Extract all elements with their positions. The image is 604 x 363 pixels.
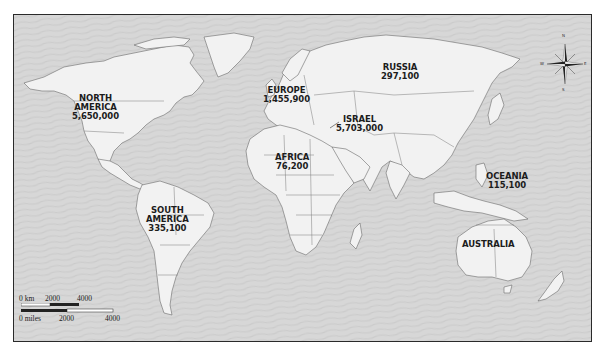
compass-n-label: N	[562, 33, 565, 38]
region-label-europe: EUROPE 1,455,900	[263, 86, 310, 104]
compass-rose-icon	[543, 38, 587, 90]
region-label-australia: AUSTRALIA	[462, 240, 515, 249]
scale-km-tick-2000: 2000	[45, 294, 60, 303]
scale-miles-tick-4000: 4000	[105, 314, 120, 323]
region-label-russia: RUSSIA 297,100	[381, 63, 419, 81]
compass-e-label: E	[584, 61, 587, 66]
region-label-south-america: SOUTH AMERICA 335,100	[146, 206, 189, 233]
map-frame: NORTH AMERICA 5,650,000 EUROPE 1,455,900…	[13, 14, 592, 342]
region-value: 76,200	[275, 162, 309, 171]
scale-bar: 0 km 2000 4000 0 miles 2000 4000	[19, 294, 129, 324]
region-label-africa: AFRICA 76,200	[275, 153, 309, 171]
region-value: 1,455,900	[263, 95, 310, 104]
scale-km-label: 0 km	[19, 294, 34, 303]
region-label-north-america: NORTH AMERICA 5,650,000	[72, 94, 119, 121]
region-label-oceania: OCEANIA 115,100	[486, 172, 528, 190]
region-value: 5,650,000	[72, 112, 119, 121]
compass-s-label: S	[562, 87, 565, 92]
region-value: 115,100	[486, 181, 528, 190]
region-label-israel: ISRAEL 5,703,000	[336, 115, 383, 133]
region-value: 335,100	[146, 224, 189, 233]
region-value: 5,703,000	[336, 124, 383, 133]
scale-miles-label: 0 miles	[19, 314, 41, 323]
scale-km-tick-4000: 4000	[77, 294, 92, 303]
scale-miles-tick-2000: 2000	[59, 314, 74, 323]
region-name-line: AUSTRALIA	[462, 240, 515, 249]
israel-pointer-line	[328, 119, 340, 131]
region-value: 297,100	[381, 72, 419, 81]
compass-w-label: W	[540, 61, 544, 66]
